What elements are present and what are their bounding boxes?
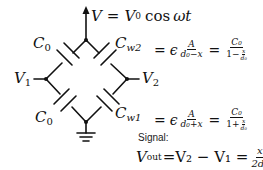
label-v2: V2 (142, 71, 159, 88)
supply-arg: ωt (173, 9, 191, 24)
label-cw1: Cw1 (115, 106, 141, 123)
signal-label: Signal: (138, 132, 169, 143)
supply-v0: V (124, 9, 135, 24)
cap-top-left-plate-b (57, 50, 72, 65)
label-cw2: Cw2 (115, 36, 141, 53)
node-left (44, 77, 48, 81)
supply-arrow-icon (83, 6, 90, 14)
label-v1: V1 (14, 71, 31, 88)
cap-top-left-plate-a (64, 43, 79, 58)
label-c0-bottom-left: C0 (35, 110, 53, 127)
equation-cw1: = ϵ Ad₀+x = C₀1+xd₀ (150, 108, 250, 131)
cap-bottom-right-plate-b (104, 89, 119, 104)
equation-cw2: = ϵ Ad₀−x = C₀1−xd₀ (150, 38, 250, 61)
cap-bottom-left-plate-a (54, 89, 69, 104)
node-right (125, 77, 129, 81)
supply-lhs: V (91, 9, 102, 24)
supply-label: V = V0 cos ωt (91, 9, 191, 24)
node-bottom (84, 120, 88, 124)
bridge-circuit (0, 0, 263, 170)
supply-v0-sub: 0 (135, 12, 141, 21)
equation-vout: Vout =V₂ − V₁ = x2d₀ V (136, 146, 263, 169)
cap-top-right-plate-b (101, 50, 116, 65)
node-top (84, 38, 88, 42)
label-c0-top-left: C0 (33, 36, 51, 53)
supply-func: cos (145, 9, 170, 24)
